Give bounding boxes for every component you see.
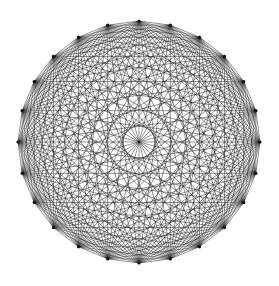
- graph-vertex: [106, 257, 109, 260]
- graph-vertex: [77, 36, 80, 39]
- graph-vertex: [223, 55, 226, 58]
- graph-vertex: [16, 140, 19, 143]
- graph-vertex: [242, 80, 245, 83]
- graph-vertex: [169, 24, 172, 27]
- graph-vertex: [106, 24, 109, 27]
- graph-vertex: [52, 55, 55, 58]
- graph-vertex: [33, 80, 36, 83]
- graph-vertex: [223, 226, 226, 229]
- graph-vertex: [169, 257, 172, 260]
- graph-vertex: [198, 245, 201, 248]
- graph-vertex: [77, 245, 80, 248]
- graph-vertex: [137, 19, 140, 22]
- graph-vertex: [52, 226, 55, 229]
- graph-vertex: [242, 201, 245, 204]
- complete-graph-k24: [0, 0, 279, 286]
- graph-vertex: [21, 172, 24, 175]
- graph-vertex: [33, 201, 36, 204]
- graph-vertex: [137, 261, 140, 264]
- graph-vertex: [258, 140, 261, 143]
- graph-vertex: [254, 172, 257, 175]
- graph-vertex: [198, 36, 201, 39]
- graph-vertex: [254, 109, 257, 112]
- graph-vertex: [21, 109, 24, 112]
